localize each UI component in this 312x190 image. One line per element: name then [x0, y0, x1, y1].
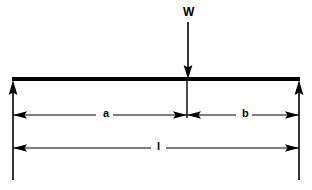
left-reaction-arrow [9, 80, 18, 180]
load-arrow-w [184, 22, 193, 79]
beam-diagram-canvas [0, 0, 312, 190]
load-label-w: W [183, 6, 194, 18]
dimension-label-a: a [100, 108, 112, 119]
beam-member [12, 77, 300, 81]
dimension-label-b: b [239, 108, 252, 119]
dimension-label-l: l [154, 141, 163, 152]
right-reaction-arrow [295, 80, 304, 180]
beam-load-diagram: W a b l [0, 0, 312, 190]
